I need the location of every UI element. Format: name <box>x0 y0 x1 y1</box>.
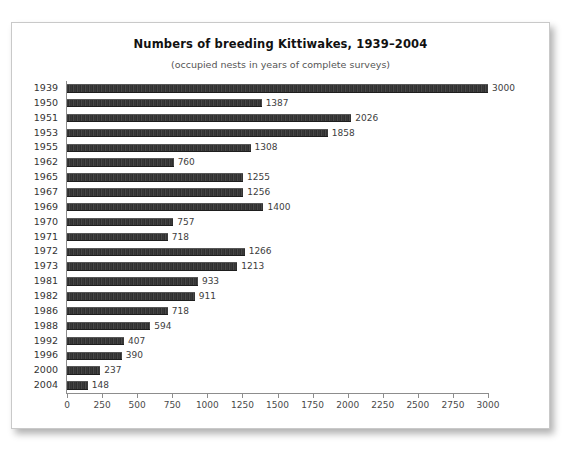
y-axis-tick-label: 1996 <box>34 348 58 363</box>
x-axis-tick <box>242 393 243 398</box>
bar-value-label: 407 <box>124 334 145 349</box>
bar <box>67 114 351 122</box>
bar-row: 19721266 <box>67 244 488 259</box>
chart-title: Numbers of breeding Kittiwakes, 1939–200… <box>12 37 549 51</box>
bar-row: 1982911 <box>67 289 488 304</box>
y-axis-tick-label: 1955 <box>34 140 58 155</box>
x-axis-tick-label: 250 <box>93 400 110 410</box>
x-axis-tick-label: 750 <box>164 400 181 410</box>
bar-value-label: 1256 <box>243 185 270 200</box>
x-axis: 0250500750100012501500175020002250250027… <box>67 393 488 423</box>
bar-row: 19551308 <box>67 140 488 155</box>
bar-value-label: 237 <box>100 363 121 378</box>
y-axis-tick-label: 1986 <box>34 304 58 319</box>
bar-value-label: 718 <box>168 304 189 319</box>
bar-row: 1970757 <box>67 215 488 230</box>
bar-row: 2000237 <box>67 363 488 378</box>
y-axis-tick-label: 1950 <box>34 96 58 111</box>
x-axis-tick <box>488 393 489 398</box>
chart-card: Numbers of breeding Kittiwakes, 1939–200… <box>11 22 550 429</box>
bar-row: 19651255 <box>67 170 488 185</box>
x-axis-tick-label: 500 <box>129 400 146 410</box>
bar-value-label: 1387 <box>262 96 289 111</box>
bar <box>67 381 88 389</box>
bar-value-label: 3000 <box>488 81 515 96</box>
bar-row: 1992407 <box>67 334 488 349</box>
x-axis-tick <box>313 393 314 398</box>
y-axis-tick-label: 1992 <box>34 334 58 349</box>
bar <box>67 84 488 92</box>
bar-row: 19671256 <box>67 185 488 200</box>
bar-value-label: 1213 <box>237 259 264 274</box>
y-axis-tick-label: 1970 <box>34 215 58 230</box>
bar-row: 2004148 <box>67 378 488 393</box>
x-axis-tick <box>418 393 419 398</box>
bar <box>67 173 243 181</box>
bar <box>67 218 173 226</box>
x-axis-tick-label: 2250 <box>371 400 394 410</box>
x-axis-tick <box>278 393 279 398</box>
x-axis-tick <box>137 393 138 398</box>
x-axis-tick-label: 1000 <box>196 400 219 410</box>
x-axis-tick <box>172 393 173 398</box>
x-axis-tick <box>348 393 349 398</box>
x-axis-tick <box>453 393 454 398</box>
x-axis-tick-label: 0 <box>64 400 70 410</box>
bar-row: 1996390 <box>67 348 488 363</box>
y-axis-tick-label: 2000 <box>34 363 58 378</box>
x-axis-tick-label: 2000 <box>336 400 359 410</box>
bar <box>67 366 100 374</box>
bar-row: 19531858 <box>67 126 488 141</box>
x-axis-tick <box>67 393 68 398</box>
bar-value-label: 594 <box>150 319 171 334</box>
x-axis-tick-label: 1250 <box>231 400 254 410</box>
bar-value-label: 1858 <box>328 126 355 141</box>
bar-value-label: 2026 <box>351 111 378 126</box>
x-axis-tick-label: 2500 <box>406 400 429 410</box>
bar-value-label: 1255 <box>243 170 270 185</box>
y-axis-tick-label: 1962 <box>34 155 58 170</box>
x-axis-tick <box>207 393 208 398</box>
bar-value-label: 1266 <box>245 244 272 259</box>
bar <box>67 307 168 315</box>
y-axis-tick-label: 1939 <box>34 81 58 96</box>
bar <box>67 322 150 330</box>
bar-value-label: 390 <box>122 348 143 363</box>
bar-row: 1981933 <box>67 274 488 289</box>
y-axis-tick-label: 2004 <box>34 378 58 393</box>
bar <box>67 292 195 300</box>
bar-value-label: 1400 <box>263 200 290 215</box>
bar-value-label: 911 <box>195 289 216 304</box>
bar-value-label: 148 <box>88 378 109 393</box>
x-axis-tick-label: 3000 <box>477 400 500 410</box>
chart-subtitle: (occupied nests in years of complete sur… <box>12 59 549 70</box>
bar <box>67 99 262 107</box>
bar-row: 1971718 <box>67 230 488 245</box>
bar <box>67 144 251 152</box>
bar-row: 19512026 <box>67 111 488 126</box>
y-axis-tick-label: 1971 <box>34 230 58 245</box>
bar <box>67 158 174 166</box>
bar <box>67 188 243 196</box>
bar <box>67 337 124 345</box>
x-axis-tick-label: 1500 <box>266 400 289 410</box>
y-axis-tick-label: 1969 <box>34 200 58 215</box>
y-axis-tick-label: 1953 <box>34 126 58 141</box>
bar-value-label: 1308 <box>251 140 278 155</box>
y-axis-tick-label: 1973 <box>34 259 58 274</box>
y-axis-tick-label: 1988 <box>34 319 58 334</box>
x-axis-tick <box>383 393 384 398</box>
y-axis-tick-label: 1967 <box>34 185 58 200</box>
bar-value-label: 933 <box>198 274 219 289</box>
bar <box>67 129 328 137</box>
bar-value-label: 760 <box>174 155 195 170</box>
bar-row: 19393000 <box>67 81 488 96</box>
y-axis-tick-label: 1965 <box>34 170 58 185</box>
bar-row: 1962760 <box>67 155 488 170</box>
y-axis-tick-label: 1982 <box>34 289 58 304</box>
bar <box>67 233 168 241</box>
bar-row: 1986718 <box>67 304 488 319</box>
plot-area: 1939300019501387195120261953185819551308… <box>67 81 488 393</box>
bar-row: 19731213 <box>67 259 488 274</box>
bar <box>67 203 263 211</box>
